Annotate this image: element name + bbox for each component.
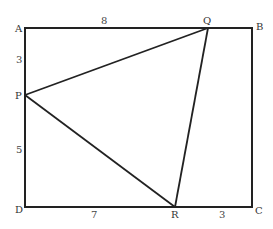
side-qr (175, 28, 208, 207)
measure-dr: 7 (91, 209, 97, 220)
triangle-pqr (25, 28, 208, 207)
side-rp (25, 95, 175, 207)
label-a: A (14, 23, 23, 34)
measure-ap: 3 (16, 54, 22, 65)
label-p: P (15, 90, 22, 101)
measure-pd: 5 (16, 144, 22, 155)
label-q: Q (203, 15, 211, 26)
geometry-diagram: A B C D P Q R 8 3 5 7 3 (0, 0, 273, 229)
label-d: D (15, 204, 23, 215)
measurement-labels: 8 3 5 7 3 (16, 15, 225, 220)
label-b: B (256, 21, 263, 32)
measure-rc: 3 (219, 209, 225, 220)
measure-aq: 8 (101, 15, 107, 26)
label-c: C (255, 205, 263, 216)
vertex-labels: A B C D P Q R (14, 15, 263, 220)
label-r: R (171, 209, 179, 220)
side-pq (25, 28, 208, 95)
